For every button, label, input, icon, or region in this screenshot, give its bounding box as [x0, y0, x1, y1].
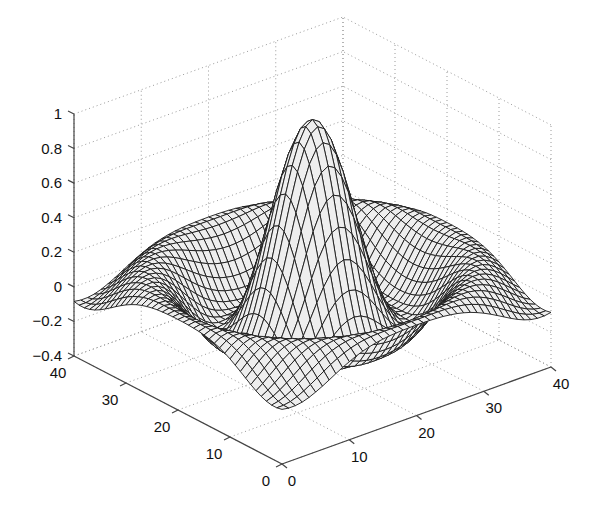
x-tick-label: 0 — [288, 472, 296, 489]
x-tick-label: 30 — [485, 399, 502, 416]
surface-plot: 010203040010203040−0.4−0.200.20.40.60.81 — [0, 0, 606, 511]
z-tick — [68, 180, 74, 183]
x-tick — [551, 367, 556, 371]
z-tick-label: −0.2 — [32, 312, 62, 329]
y-tick — [172, 410, 178, 413]
y-tick-label: 30 — [102, 391, 119, 408]
z-tick-label: −0.4 — [32, 347, 62, 364]
x-tick — [282, 464, 287, 468]
z-tick — [68, 318, 74, 321]
y-tick-label: 10 — [206, 445, 223, 462]
z-tick-label: 0 — [54, 278, 62, 295]
y-tick-label: 40 — [50, 364, 67, 381]
x-tick — [484, 391, 489, 395]
x-tick-label: 20 — [418, 424, 435, 441]
z-tick-label: 0.6 — [41, 174, 62, 191]
y-tick-label: 0 — [262, 472, 270, 489]
y-tick — [224, 437, 230, 440]
z-tick-label: 0.2 — [41, 243, 62, 260]
x-tick — [349, 440, 354, 444]
y-tick-label: 20 — [154, 418, 171, 435]
z-tick — [68, 215, 74, 218]
z-tick — [68, 353, 74, 356]
y-tick — [68, 356, 74, 359]
mesh-surface — [74, 120, 551, 410]
z-tick-label: 1 — [54, 105, 62, 122]
y-tick — [120, 383, 126, 386]
z-tick-label: 0.4 — [41, 209, 62, 226]
z-tick — [68, 284, 74, 287]
z-tick-label: 0.8 — [41, 140, 62, 157]
z-tick — [68, 146, 74, 149]
plot-canvas: 010203040010203040−0.4−0.200.20.40.60.81 — [0, 0, 606, 511]
z-tick — [68, 249, 74, 252]
x-tick-label: 10 — [351, 448, 368, 465]
z-tick — [68, 111, 74, 114]
y-tick — [276, 464, 282, 467]
x-tick — [417, 416, 422, 420]
gridline — [343, 52, 551, 160]
x-tick-label: 40 — [553, 375, 570, 392]
